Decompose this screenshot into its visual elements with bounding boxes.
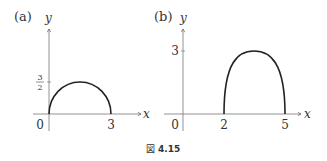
- panel-a-y-tick-numerator: 3: [37, 73, 42, 82]
- caption-prefix: 図: [146, 144, 155, 154]
- panel-b-arch-curve: [224, 51, 285, 114]
- figure-canvas: (a) y x 3 2 0 3 (b) y x 3 0 2 5 図 4.15: [0, 0, 327, 161]
- panel-a-label: (a): [14, 9, 32, 24]
- panel-b-y-tick-3: 3: [171, 44, 179, 58]
- panel-b-x-tick-2: 2: [220, 118, 228, 132]
- panel-b-y-axis-label: y: [179, 11, 187, 25]
- panel-b-x-axis-label: x: [304, 107, 311, 121]
- panel-a-x-tick-3: 3: [107, 118, 115, 132]
- panel-a: (a) y x 3 2 0 3: [14, 9, 150, 132]
- panel-a-y-axis-label: y: [44, 11, 52, 25]
- caption-number: 4.15: [158, 144, 180, 154]
- panel-a-semicircle-curve: [49, 82, 111, 114]
- panel-b-origin-label: 0: [171, 118, 179, 132]
- panel-a-x-axis-label: x: [143, 107, 150, 121]
- panel-a-origin-label: 0: [36, 118, 44, 132]
- panel-b-label: (b): [154, 9, 172, 24]
- figure-caption: 図 4.15: [146, 144, 180, 154]
- panel-b-x-tick-5: 5: [281, 118, 289, 132]
- panel-b: (b) y x 3 0 2 5: [154, 9, 311, 132]
- panel-a-y-tick-denominator: 2: [37, 83, 42, 92]
